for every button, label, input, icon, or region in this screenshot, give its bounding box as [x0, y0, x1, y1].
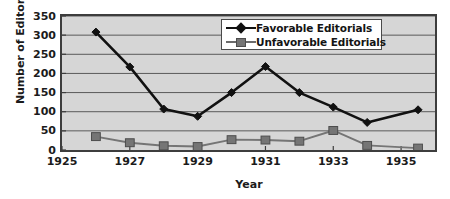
legend-label-unfavorable: Unfavorable Editorials — [256, 36, 386, 48]
legend-item-unfavorable: Unfavorable Editorials — [222, 35, 381, 49]
legend-label-favorable: Favorable Editorials — [256, 22, 372, 34]
x-tick-label: 1935 — [371, 156, 431, 167]
chart-legend: Favorable Editorials Unfavorable Editori… — [221, 19, 382, 50]
diamond-marker-icon — [226, 22, 256, 34]
legend-item-favorable: Favorable Editorials — [222, 21, 381, 35]
square-marker-icon — [226, 36, 256, 48]
x-tick-label: 1931 — [235, 156, 295, 167]
x-axis-title: Year — [60, 178, 438, 191]
x-tick-label: 1933 — [303, 156, 363, 167]
chart-container: Number of Editorials 0501001502002503003… — [0, 0, 450, 199]
x-tick-label: 1929 — [168, 156, 228, 167]
x-tick-label: 1927 — [100, 156, 160, 167]
x-tick-label: 1925 — [32, 156, 92, 167]
